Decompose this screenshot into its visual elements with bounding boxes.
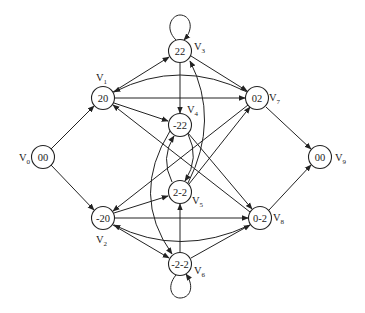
node-value: 00 [38, 152, 49, 163]
node-v2: -20 V2 [92, 207, 115, 249]
node-v0: 00 V0 [19, 146, 55, 169]
node-value: -2-2 [171, 259, 189, 270]
edge-v2-v6 [113, 225, 169, 258]
edge-v5-v4 [166, 136, 174, 182]
node-label: V6 [194, 265, 206, 279]
node-value: 20 [98, 93, 109, 104]
node-label: V2 [96, 234, 108, 248]
node-label: V4 [187, 104, 199, 118]
node-value: 22 [175, 46, 186, 57]
node-v7: 02 V7 [246, 87, 281, 110]
edge-v7-v9 [266, 107, 311, 149]
node-value: 0-2 [253, 213, 267, 224]
node-label: V7 [269, 92, 281, 106]
node-label: V5 [192, 195, 204, 209]
edge-v1-v3 [113, 57, 169, 92]
node-value: 00 [315, 152, 326, 163]
node-v5: 2-2 V5 [169, 181, 204, 210]
node-value: 2-2 [173, 187, 187, 198]
edge-v8-v9 [269, 165, 311, 210]
edge-v8-v2 [114, 225, 250, 242]
node-label: V0 [19, 152, 31, 166]
node-label: V1 [96, 72, 108, 86]
edge-v6-v8 [191, 225, 250, 258]
edge-v0-v1 [51, 106, 94, 149]
node-value: -20 [96, 213, 110, 224]
node-value: 02 [252, 93, 263, 104]
node-value: -22 [173, 120, 187, 131]
node-v1: 20 V1 [92, 72, 115, 110]
node-label: V8 [273, 212, 285, 226]
node-v8: 0-2 V8 [249, 207, 285, 230]
edge-v2-v5 [114, 196, 168, 213]
node-v9: 00 V9 [309, 146, 347, 169]
edge-v3-self-loop [170, 15, 190, 40]
node-label: V9 [335, 152, 347, 166]
edge-v0-v2 [51, 165, 94, 210]
state-transition-graph: 00 V0 20 V1 -20 V2 22 V3 -22 V4 [0, 0, 365, 313]
node-v4: -22 V4 [169, 104, 199, 137]
edge-v6-self-loop [171, 274, 191, 298]
node-v3: 22 V3 [169, 40, 206, 63]
node-label: V3 [194, 41, 206, 55]
